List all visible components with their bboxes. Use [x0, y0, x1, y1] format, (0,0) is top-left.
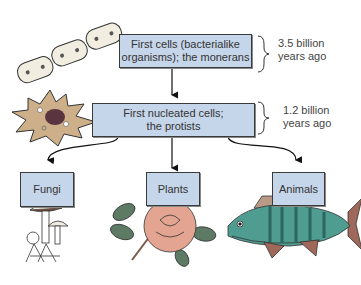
time-label-protists: 1.2 billion years ago — [283, 104, 331, 130]
amoeba-illustration — [12, 90, 96, 146]
node-monerans: First cells (bacterialike organisms); th… — [119, 34, 252, 68]
node-text: First nucleated cells; — [123, 107, 223, 120]
node-text: organisms); the monerans — [122, 51, 250, 64]
bacteria-chain-illustration — [12, 21, 127, 86]
node-protists: First nucleated cells; the protists — [92, 103, 255, 137]
node-text: Animals — [279, 183, 318, 196]
mushrooms-illustration — [26, 202, 68, 262]
node-text: the protists — [123, 120, 223, 133]
brace-icon — [258, 36, 269, 72]
time-text: years ago — [278, 50, 326, 63]
node-fungi: Fungi — [20, 172, 74, 207]
rose-illustration — [108, 200, 217, 269]
node-text: Plants — [158, 183, 189, 196]
time-text: 3.5 billion — [278, 37, 326, 50]
arrow-protists-to-animals — [228, 137, 296, 160]
time-text: years ago — [283, 117, 331, 130]
node-text: First cells (bacterialike — [122, 38, 250, 51]
time-text: 1.2 billion — [283, 104, 331, 117]
brace-icon — [258, 102, 269, 134]
time-label-monerans: 3.5 billion years ago — [278, 37, 326, 63]
node-animals: Animals — [272, 172, 325, 206]
node-text: Fungi — [33, 183, 61, 196]
node-plants: Plants — [146, 172, 200, 206]
